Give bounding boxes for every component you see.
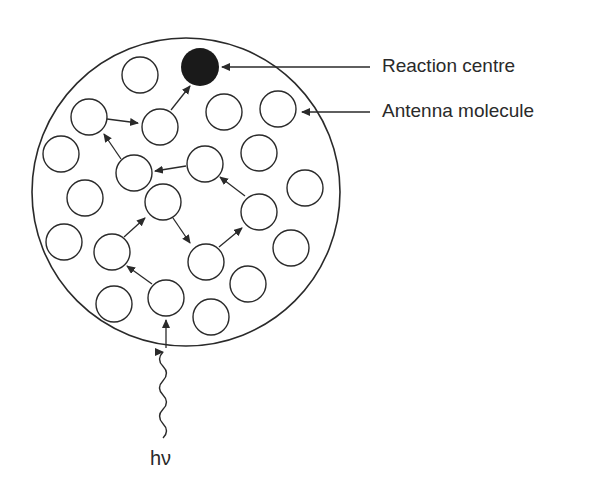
antenna-molecule [260,91,296,127]
energy-transfer-arrow [127,266,152,284]
antenna-molecule [273,230,309,266]
reaction-centre-label: Reaction centre [382,55,515,77]
antenna-molecule [116,155,152,191]
energy-transfer-arrow [219,228,242,247]
antenna-molecule [122,57,158,93]
antenna-molecule [67,180,103,216]
antenna-molecule [188,244,224,280]
antenna-molecule [145,184,181,220]
antenna-molecule [71,99,107,135]
energy-transfer-arrow [104,134,121,159]
antenna-molecule [96,286,132,322]
energy-transfer-arrow [171,86,190,110]
energy-transfer-arrow [155,166,186,171]
antenna-molecule-label: Antenna molecule [382,100,534,122]
energy-transfer-arrow [220,177,245,196]
antenna-molecule [43,136,79,172]
antenna-molecule [206,94,242,130]
antenna-molecule [193,299,229,335]
antenna-molecule [241,194,277,230]
energy-transfer-arrow [107,119,138,123]
antenna-molecule [241,135,277,171]
photon-energy-label: hν [150,447,171,470]
reaction-centre-molecule [181,48,219,86]
antenna-molecule [230,266,266,302]
antenna-molecules-group [43,57,323,335]
photon-wavy-line [160,352,167,438]
antenna-molecule [187,146,223,182]
antenna-molecule [142,109,178,145]
energy-transfer-arrow [173,218,190,243]
energy-transfer-arrow [124,218,145,237]
antenna-molecule [46,224,82,260]
antenna-molecule [148,280,184,316]
antenna-molecule [287,170,323,206]
antenna-molecule [94,234,130,270]
